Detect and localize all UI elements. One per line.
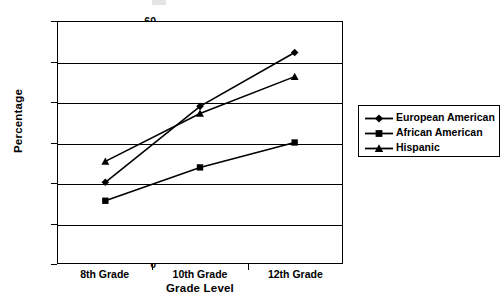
- plot-area: [57, 21, 343, 264]
- data-point-diamond: [291, 49, 299, 57]
- x-axis-tick-mark: [152, 264, 153, 270]
- data-point-triangle: [101, 157, 109, 164]
- legend-item-label: African American: [396, 127, 483, 138]
- y-axis-tick-mark: [51, 264, 57, 265]
- chart-figure: Percentage 6050403020100 8th Grade10th G…: [0, 0, 504, 299]
- legend-item-label: European American: [396, 112, 495, 123]
- diamond-marker-icon: [364, 111, 394, 124]
- x-axis-tick-label: 10th Grade: [155, 268, 245, 280]
- data-point-square: [197, 164, 203, 170]
- series-line-diamond: [105, 53, 294, 183]
- chart-legend: European AmericanAfrican AmericanHispani…: [358, 105, 500, 157]
- series-lines: [58, 22, 342, 263]
- x-axis-title: Grade Level: [57, 282, 343, 294]
- data-point-square: [102, 198, 108, 204]
- series-line-triangle: [105, 77, 294, 162]
- legend-item[interactable]: Hispanic: [364, 140, 499, 155]
- data-point-triangle: [291, 73, 299, 80]
- legend-item-label: Hispanic: [396, 142, 440, 153]
- x-axis-tick-mark: [248, 264, 249, 270]
- series-line-square: [105, 143, 294, 201]
- title-remnant: [152, 0, 166, 5]
- y-axis-title: Percentage: [12, 76, 24, 166]
- x-axis-tick-label: 12th Grade: [250, 268, 340, 280]
- x-axis-tick-label: 8th Grade: [60, 268, 150, 280]
- legend-item[interactable]: European American: [364, 110, 499, 125]
- data-point-square: [291, 139, 297, 145]
- triangle-marker-icon: [364, 141, 394, 154]
- square-marker-icon: [364, 126, 394, 139]
- legend-item[interactable]: African American: [364, 125, 499, 140]
